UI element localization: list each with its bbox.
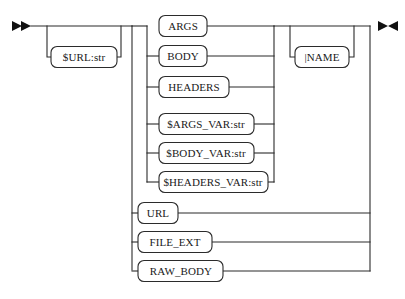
entry-arrow-icon xyxy=(12,21,31,31)
terminal-box-url xyxy=(138,203,178,224)
terminal-box-name xyxy=(295,47,349,68)
railroad-diagram: $URL:str ARGS BODY HEADERS $ARGS_VAR:str… xyxy=(0,0,405,299)
terminal-box-headers xyxy=(159,77,229,98)
terminal-box-body-var-str xyxy=(159,143,254,164)
railroad-diagram-canvas xyxy=(0,0,405,299)
terminal-box-args xyxy=(159,16,207,37)
terminal-box-file-ext xyxy=(138,232,212,253)
terminal-box-raw-body xyxy=(138,261,223,282)
terminal-box-args-var-str xyxy=(159,114,254,135)
terminal-box-url-str xyxy=(51,47,117,68)
exit-arrow-icon xyxy=(378,21,398,31)
terminal-box-body xyxy=(159,46,207,67)
terminal-box-headers-var-str xyxy=(159,172,268,193)
